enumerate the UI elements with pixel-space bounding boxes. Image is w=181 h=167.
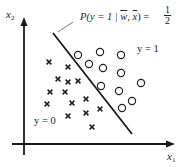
decision-boundary-line [53,33,132,134]
cross-marker-icon [66,80,71,85]
fraction-half: 1 2 [164,5,171,26]
cross-marker-icon [84,111,89,116]
cross-marker-icon [48,90,53,95]
circle-marker-icon [74,51,81,58]
class-0-label: y = 0 [34,115,56,126]
boundary-equation: P(y = 1 | w, x) = [80,11,149,22]
circle-marker-icon [117,51,124,58]
circle-marker-icon [99,64,106,71]
circle-marker-icon [128,97,135,104]
cross-marker-icon [76,79,81,84]
cross-marker-icon [45,102,50,107]
circle-marker-icon [115,87,122,94]
cross-marker-icon [66,65,71,70]
circle-marker-icon [97,82,104,89]
circle-marker-icon [137,79,144,86]
class-1-label: y = 1 [137,43,159,54]
circle-marker-icon [118,104,125,111]
cross-marker-icon [63,90,68,95]
cross-marker-icon [47,60,52,65]
y-axis-arrow-icon [21,17,28,26]
class-1-markers [74,48,144,111]
circle-marker-icon [96,48,103,55]
circle-marker-icon [85,60,92,67]
cross-marker-icon [84,97,89,102]
circle-marker-icon [117,69,124,76]
cross-marker-icon [98,107,103,112]
cross-marker-icon [70,101,75,106]
cross-marker-icon [56,77,61,82]
diagram-canvas [0,0,181,167]
x-axis-arrow-icon [166,141,175,148]
y-axis-label: x2 [6,8,14,22]
x-axis-label: x1 [167,150,175,164]
cross-marker-icon [66,114,71,119]
cross-marker-icon [90,125,95,130]
label-leader-line [58,22,73,32]
